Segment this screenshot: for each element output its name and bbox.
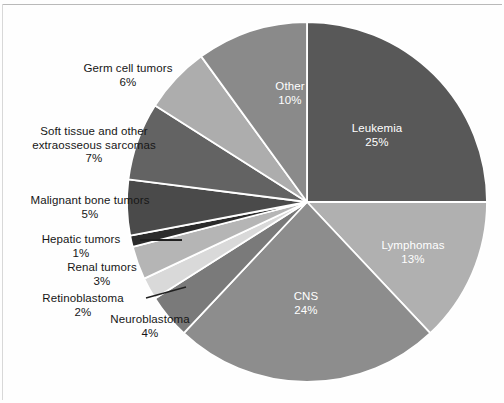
slice-label-leukemia: Leukemia 25% <box>329 122 425 149</box>
slice-label-other-pct: 10% <box>258 94 322 108</box>
slice-label-other-name: Other <box>275 80 304 92</box>
slice-label-cns: CNS 24% <box>272 290 340 317</box>
slice-label-other: Other 10% <box>258 80 322 107</box>
leader-line-hepatic <box>140 239 182 241</box>
slice-label-lymphomas-pct: 13% <box>361 253 465 267</box>
slice-label-lymphomas: Lymphomas 13% <box>361 239 465 266</box>
slice-label-leukemia-pct: 25% <box>329 136 425 150</box>
slice-label-neuroblastoma-pct: 4% <box>88 327 212 341</box>
slice-label-soft-tissue-line1: Soft tissue and other <box>40 125 148 137</box>
slice-label-cns-name: CNS <box>294 290 319 302</box>
slice-label-hepatic-name: Hepatic tumors <box>42 233 121 245</box>
slice-label-retinoblastoma-name: Retinoblastoma <box>42 292 123 304</box>
slice-label-renal: Renal tumors 3% <box>50 261 154 288</box>
slice-label-bone-name: Malignant bone tumors <box>30 194 149 206</box>
slice-label-hepatic-pct: 1% <box>26 247 136 261</box>
slice-label-bone: Malignant bone tumors 5% <box>14 194 166 221</box>
slice-label-soft-tissue-pct: 7% <box>18 152 170 166</box>
slice-label-bone-pct: 5% <box>14 208 166 222</box>
slice-label-germ-cell: Germ cell tumors 6% <box>58 62 198 89</box>
slice-label-germ-cell-pct: 6% <box>58 76 198 90</box>
pie-slice-leukemia[interactable] <box>307 22 487 202</box>
slice-label-hepatic: Hepatic tumors 1% <box>26 233 136 260</box>
slice-label-soft-tissue: Soft tissue and other extraosseous sarco… <box>18 125 170 166</box>
slice-label-renal-name: Renal tumors <box>67 261 137 273</box>
slice-label-renal-pct: 3% <box>50 275 154 289</box>
slice-label-neuroblastoma: Neuroblastoma 4% <box>88 313 212 340</box>
slice-label-neuroblastoma-name: Neuroblastoma <box>110 313 189 325</box>
pie-chart-figure: Leukemia 25% Lymphomas 13% CNS 24% Other… <box>0 0 504 403</box>
slice-label-lymphomas-name: Lymphomas <box>381 239 444 251</box>
slice-label-germ-cell-name: Germ cell tumors <box>83 62 172 74</box>
slice-label-soft-tissue-line2: extraosseous sarcomas <box>18 139 170 153</box>
slice-label-cns-pct: 24% <box>272 304 340 318</box>
slice-label-leukemia-name: Leukemia <box>352 122 403 134</box>
